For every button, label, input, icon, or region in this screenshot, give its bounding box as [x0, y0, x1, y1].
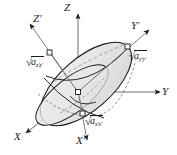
axis-label-x-prime: X′ [76, 135, 85, 146]
axis-label-x: X [14, 131, 21, 142]
vertex-marker-yprime [125, 44, 130, 49]
tensor-ellipsoid-figure: Z Y X Z′ Y′ X′ √az′z′ √ay′y′ √ax′x′ [0, 0, 177, 155]
vertex-marker-origin [76, 90, 81, 95]
axis-label-z-prime: Z′ [33, 13, 41, 24]
axis-label-z: Z [64, 2, 70, 13]
semi-axis-label-zz: √az′z′ [26, 56, 44, 68]
axis-label-y: Y [162, 86, 168, 97]
vertex-marker-zprime [47, 50, 52, 55]
figure-drawing [0, 0, 177, 155]
axis-label-y-prime: Y′ [131, 20, 139, 31]
semi-axis-label-yy: √ay′y′ [129, 50, 147, 62]
semi-axis-label-xx: √ax′x′ [85, 115, 103, 127]
